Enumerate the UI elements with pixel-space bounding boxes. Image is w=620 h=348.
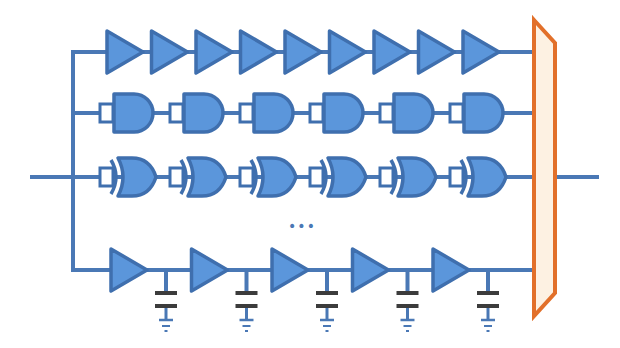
inverter-bubble-icon	[240, 104, 253, 122]
buffer-gate-icon	[330, 31, 366, 73]
buffer-gate-icon	[107, 31, 143, 73]
or-gate-icon	[328, 158, 366, 196]
and-gate-icon	[254, 94, 293, 132]
inverter-bubble-icon	[310, 104, 323, 122]
inverter-bubble-icon	[380, 104, 393, 122]
ellipsis-more-chains: •••	[288, 218, 316, 234]
inverter-bubble-icon	[450, 104, 463, 122]
buffer-gate-icon	[241, 31, 277, 73]
capacitor-to-ground-icon	[397, 270, 419, 331]
or-gate-icon	[468, 158, 506, 196]
and-gate-icon	[394, 94, 433, 132]
buffer-gate-icon	[111, 249, 147, 291]
buffer-gate-icon	[433, 249, 469, 291]
buffer-chain	[107, 31, 499, 73]
capacitor-to-ground-icon	[316, 270, 338, 331]
or-gate-icon	[188, 158, 226, 196]
gates	[100, 31, 506, 291]
and-gate-icon	[184, 94, 223, 132]
buffer-gate-icon	[374, 31, 410, 73]
capacitor-to-ground-icon	[236, 270, 258, 331]
inverter-bubble-icon	[450, 168, 463, 186]
buffer-gate-icon	[419, 31, 455, 73]
inverter-bubble-icon	[170, 104, 183, 122]
buffer-gate-icon	[272, 249, 308, 291]
wires	[32, 52, 597, 270]
inverter-bubble-icon	[100, 104, 113, 122]
inverter-bubble-icon	[170, 168, 183, 186]
inverter-bubble-icon	[310, 168, 323, 186]
inverter-bubble-icon	[240, 168, 253, 186]
capacitor-to-ground-icon	[477, 270, 499, 331]
buffer-gate-icon	[463, 31, 499, 73]
and-gate-icon	[464, 94, 503, 132]
and-gate-icon	[324, 94, 363, 132]
buffer-gate-icon	[285, 31, 321, 73]
inverter-bubble-icon	[100, 168, 113, 186]
inverter-bubble-icon	[380, 168, 393, 186]
or-gate-icon	[118, 158, 156, 196]
and-gate-icon	[114, 94, 153, 132]
delay-chain-diagram: •••	[0, 0, 620, 348]
multiplexer	[534, 20, 555, 316]
buffer-gate-icon	[353, 249, 389, 291]
capacitor-to-ground-icon	[155, 270, 177, 331]
buffer-gate-icon	[192, 249, 228, 291]
buffer-gate-icon	[196, 31, 232, 73]
mux-icon	[534, 20, 555, 316]
buffer-gate-icon	[152, 31, 188, 73]
or-gate-icon	[258, 158, 296, 196]
or-gate-icon	[398, 158, 436, 196]
